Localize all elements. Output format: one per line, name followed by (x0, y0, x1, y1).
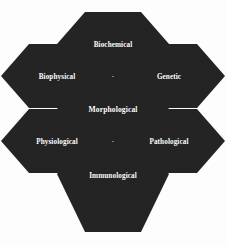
hex-label-physiological: Physiological (36, 138, 78, 146)
hex-label-biophysical: Biophysical (39, 73, 76, 81)
hex-label-morphological: Morphological (89, 105, 138, 114)
hex-cell-immunological[interactable]: Immunological (57, 142, 169, 232)
hex-label-immunological: Immunological (89, 172, 137, 180)
hex-label-genetic: Genetic (157, 73, 182, 81)
honeycomb-canvas: Biochemical Biophysical Genetic Morpholo… (0, 0, 226, 246)
hex-label-pathological: Pathological (149, 138, 188, 146)
hex-shape-immunological (57, 142, 169, 232)
honeycomb-diagram: Biochemical Biophysical Genetic Morpholo… (0, 0, 226, 246)
hex-label-biochemical: Biochemical (94, 41, 133, 49)
